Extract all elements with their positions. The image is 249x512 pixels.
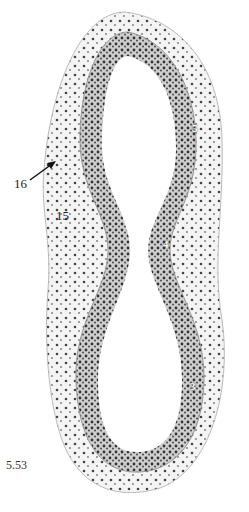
label-15: 15	[56, 208, 69, 224]
label-5: 5	[192, 122, 198, 134]
label-4: 4	[163, 238, 169, 250]
histology-micrograph: 16 15 5 4 3 5.53	[0, 0, 249, 512]
label-16: 16	[14, 176, 27, 192]
neural-tube-section	[0, 0, 249, 512]
label-3: 3	[190, 380, 196, 392]
figure-number: 5.53	[6, 458, 27, 473]
